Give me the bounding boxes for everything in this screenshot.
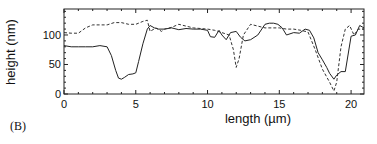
x-axis-label: length (µm) xyxy=(225,111,291,126)
x-tick-label: 5 xyxy=(133,98,139,110)
y-tick-label: 50 xyxy=(49,58,61,70)
y-axis-label: height (nm) xyxy=(3,19,18,85)
panel-label: (B) xyxy=(10,119,26,133)
x-tick-label: 10 xyxy=(201,98,213,110)
y-tick-label: 0 xyxy=(55,88,61,100)
x-tick-label: 0 xyxy=(61,98,67,110)
dashed-profile-line xyxy=(64,20,364,91)
solid-profile-line xyxy=(64,23,364,79)
axis-tick-labels: 05101520050100 xyxy=(43,29,358,110)
x-tick-label: 20 xyxy=(345,98,357,110)
y-tick-label: 100 xyxy=(43,29,61,41)
x-tick-label: 15 xyxy=(273,98,285,110)
height-profile-chart: 05101520050100 height (nm) length (µm) (… xyxy=(0,0,377,144)
